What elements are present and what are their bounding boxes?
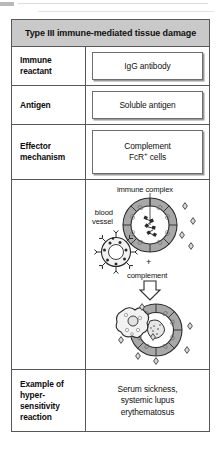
table-row-effector-mechanism: Effectormechanism ComplementFcR+ cells	[12, 125, 209, 180]
figure-title: Type III immune-mediated tissue damage	[25, 28, 196, 38]
diagram-label-complement: complement	[127, 271, 167, 280]
value-text-antigen: Soluble antigen	[119, 100, 175, 111]
value-box-effector-mechanism: ComplementFcR+ cells	[92, 130, 203, 174]
diagram-label-plus: +	[146, 258, 151, 267]
row-value-example: Serum sickness,systemic lupuserythematos…	[86, 370, 209, 432]
row-label-text: Example ofhyper-sensitivityreaction	[20, 379, 64, 423]
row-label-antigen: Antigen	[12, 86, 86, 124]
label-line-2: hyper-	[20, 390, 45, 400]
value-line-1: Serum sickness,	[118, 384, 178, 394]
infiltrating-neutrophil	[116, 308, 149, 338]
scan-artifact-top-left	[0, 2, 14, 6]
value-box-antigen: Soluble antigen	[92, 91, 203, 119]
value-line-2: systemic lupus	[121, 395, 175, 405]
diagram-label-blood-vessel: bloodvessel	[92, 208, 113, 226]
label-line-1: Example of	[20, 379, 64, 389]
row-value-antigen: Soluble antigen	[86, 86, 209, 124]
scan-artifact-line-upper	[18, 3, 208, 4]
label-line-2: mechanism	[20, 152, 65, 162]
scan-artifact-line-lower	[38, 11, 214, 12]
row-label-text: Antigen	[20, 100, 50, 111]
value-text-immune-reactant: IgG antibody	[124, 61, 170, 72]
table-row-diagram: immune complex bloodvessel + complement	[12, 180, 209, 370]
row-label-text: Effectormechanism	[20, 141, 65, 163]
value-text-effector-mechanism: ComplementFcR+ cells	[124, 141, 170, 163]
row-value-diagram: immune complex bloodvessel + complement	[86, 180, 209, 369]
value-line-2: FcR+ cells	[129, 152, 166, 162]
row-label-text: Immunereactant	[20, 55, 52, 77]
row-label-diagram-empty	[12, 180, 86, 369]
row-label-immune-reactant: Immunereactant	[12, 47, 86, 85]
label-line-3: sensitivity	[20, 401, 60, 411]
label-line-2: reactant	[20, 66, 52, 76]
blood-vessel-line-1: blood	[95, 208, 113, 217]
figure-header: Type III immune-mediated tissue damage	[12, 20, 209, 47]
down-arrow	[140, 281, 160, 300]
value-text-example: Serum sickness,systemic lupuserythematos…	[118, 384, 178, 419]
blood-vessel-line-2: vessel	[92, 217, 113, 226]
label-line-1: Immune	[20, 55, 52, 65]
label-line-4: reaction	[20, 412, 52, 422]
row-value-immune-reactant: IgG antibody	[86, 47, 209, 85]
table-row-example: Example ofhyper-sensitivityreaction Seru…	[12, 370, 209, 432]
diagram-label-immune-complex: immune complex	[117, 185, 173, 194]
value-box-immune-reactant: IgG antibody	[92, 52, 203, 80]
type-iii-hypersensitivity-figure: Type III immune-mediated tissue damage I…	[11, 19, 210, 432]
row-label-example: Example ofhyper-sensitivityreaction	[12, 370, 86, 432]
inflamed-vessel-with-infiltrating-cell	[116, 304, 182, 356]
value-line-3: erythematosus	[121, 407, 175, 417]
table-row-immune-reactant: Immunereactant IgG antibody	[12, 47, 209, 86]
label-line-1: Effector	[20, 141, 51, 151]
table-row-antigen: Antigen Soluble antigen	[12, 86, 209, 125]
blood-vessel-cross-section	[123, 193, 177, 252]
row-value-effector-mechanism: ComplementFcR+ cells	[86, 125, 209, 179]
row-label-effector-mechanism: Effectormechanism	[12, 125, 86, 179]
scattered-immune-complexes-top	[180, 203, 196, 250]
